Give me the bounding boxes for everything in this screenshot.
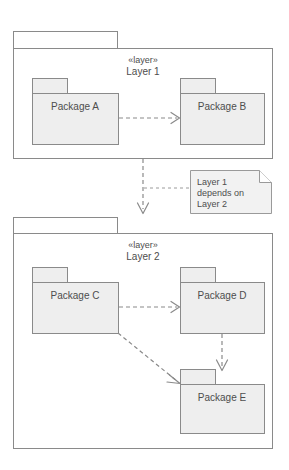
package-c-label: Package C — [51, 290, 100, 301]
layer-2-name: Layer 2 — [126, 251, 160, 262]
layer-1-name: Layer 1 — [126, 66, 160, 77]
package-d-tab — [181, 268, 216, 283]
note-line-1: Layer 1 — [197, 177, 227, 187]
package-e-label: Package E — [198, 392, 247, 403]
layer-1-stereotype: «layer» — [128, 55, 158, 65]
package-a-label: Package A — [51, 101, 99, 112]
package-d-label: Package D — [198, 290, 247, 301]
dependency-note[interactable]: Layer 1 depends on Layer 2 — [191, 171, 272, 214]
layer-2-stereotype: «layer» — [128, 240, 158, 250]
layer-1-tab — [14, 32, 118, 49]
dependency-layer1-to-layer2 — [138, 159, 149, 214]
package-a-tab — [33, 79, 68, 94]
note-line-3: Layer 2 — [197, 199, 227, 209]
uml-package-diagram: «layer» Layer 1 Package A Package B — [0, 0, 289, 470]
diagram-canvas: «layer» Layer 1 Package A Package B — [0, 0, 289, 470]
package-c-tab — [33, 268, 68, 283]
layer-2-tab — [14, 218, 118, 234]
package-b-label: Package B — [198, 101, 247, 112]
note-line-2: depends on — [197, 188, 244, 198]
package-b-tab — [181, 79, 216, 94]
package-e-tab — [181, 370, 216, 385]
